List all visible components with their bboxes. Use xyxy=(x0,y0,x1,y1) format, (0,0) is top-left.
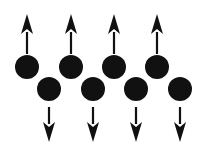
arrow-down-icon xyxy=(87,122,99,142)
spin-site-3 xyxy=(59,14,83,79)
spin-site-2 xyxy=(37,77,61,142)
arrow-down-icon xyxy=(130,122,142,142)
arrow-up-icon xyxy=(108,14,120,34)
atom-circle xyxy=(59,55,83,79)
arrow-up-icon xyxy=(151,14,163,34)
arrow-down-icon xyxy=(174,122,186,142)
atom-circle xyxy=(145,55,169,79)
spin-site-6 xyxy=(124,77,148,142)
atom-circle xyxy=(81,77,105,101)
atom-circle xyxy=(102,55,126,79)
spin-site-7 xyxy=(145,14,169,79)
arrow-up-icon xyxy=(21,14,33,34)
spin-site-4 xyxy=(81,77,105,142)
spin-site-5 xyxy=(102,14,126,79)
arrow-down-icon xyxy=(43,122,55,142)
spin-site-1 xyxy=(15,14,39,79)
spin-lattice-diagram xyxy=(0,0,200,147)
atom-circle xyxy=(37,77,61,101)
atom-circle xyxy=(168,77,192,101)
atom-circle xyxy=(15,55,39,79)
spin-site-8 xyxy=(168,77,192,142)
arrow-up-icon xyxy=(65,14,77,34)
atom-circle xyxy=(124,77,148,101)
